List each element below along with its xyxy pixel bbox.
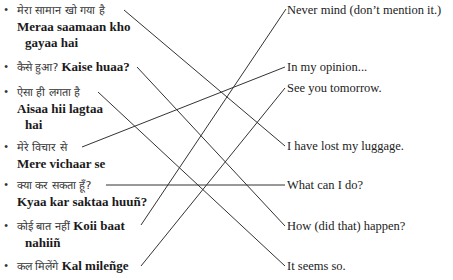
right-item-1: In my opinion...: [287, 59, 367, 75]
right-item-5: How (did that) happen?: [287, 218, 405, 234]
hindi-text: कल मिलेंगे: [17, 260, 59, 273]
bullet-icon: •: [4, 2, 8, 18]
transliteration: Meraa saamaan kho: [17, 19, 130, 34]
right-item-0: Never mind (don’t mention it.): [287, 2, 441, 18]
match-line-0: [124, 10, 285, 146]
transliteration: Kyaa kar saktaa huuñ?: [17, 194, 147, 209]
left-item-1: • कैसे हुआ? Kaise huaa?: [4, 59, 130, 76]
bullet-icon: •: [4, 258, 8, 274]
left-item-3: • मेरे विचार से Mere vichaar se: [4, 139, 105, 172]
match-line-3: [82, 67, 285, 147]
bullet-icon: •: [4, 139, 8, 155]
transliteration: Aisaa hii lagtaa: [17, 101, 103, 116]
left-item-4: • क्या कर सकता हूँ? Kyaa kar saktaa huuñ…: [4, 177, 147, 210]
right-item-2: See you tomorrow.: [287, 80, 382, 96]
bullet-icon: •: [4, 218, 8, 234]
transliteration: Kal mileñge: [62, 258, 129, 273]
right-item-3: I have lost my luggage.: [287, 138, 404, 154]
right-item-4: What can I do?: [287, 177, 363, 193]
hindi-text: क्या कर सकता हूँ?: [17, 179, 91, 192]
bullet-icon: •: [4, 84, 8, 100]
transliteration-cont: gayaa hai: [17, 35, 78, 51]
hindi-text: मेरा सामान खो गया है: [17, 4, 105, 17]
hindi-text: ऐसा ही लगता है: [17, 86, 81, 99]
right-item-6: It seems so.: [287, 258, 346, 274]
left-item-6: • कल मिलेंगे Kal mileñge: [4, 258, 128, 275]
match-line-1: [137, 67, 285, 226]
match-line-6: [141, 88, 285, 266]
left-item-5: • कोई बात नहीं Koii baat nahiiñ: [4, 218, 125, 251]
transliteration: Kaise huaa?: [61, 59, 129, 74]
left-item-0: • मेरा सामान खो गया है Meraa saamaan kho…: [4, 2, 130, 51]
hindi-text: कैसे हुआ?: [17, 61, 58, 74]
transliteration-cont: nahiiñ: [17, 235, 60, 251]
hindi-text: कोई बात नहीं: [17, 220, 70, 233]
left-item-2: • ऐसा ही लगता है Aisaa hii lagtaa hai: [4, 84, 103, 133]
bullet-icon: •: [4, 177, 8, 193]
transliteration-cont: hai: [17, 117, 42, 133]
match-line-5: [141, 9, 286, 225]
transliteration: Koii baat: [73, 218, 125, 233]
hindi-text: मेरे विचार से: [17, 141, 67, 154]
transliteration: Mere vichaar se: [17, 156, 105, 171]
bullet-icon: •: [4, 59, 8, 75]
